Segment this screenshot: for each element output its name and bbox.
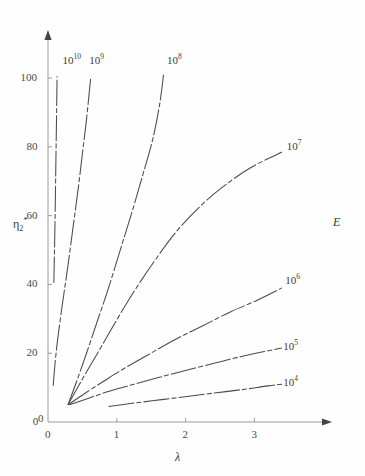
figure-container: 012302040608010010101091081071061051040 … [0,0,365,476]
y-tick-label: 100 [20,72,37,83]
curve-label-exponent: 6 [296,272,300,281]
curve-10-9 [53,78,91,386]
curve-label-base: 10 [283,375,294,387]
y-axis-label-subscript: 2 [19,224,23,233]
y-tick-label: 40 [27,278,38,289]
y-axis-label-star: * [23,215,28,225]
x-tick-label: 2 [183,429,189,440]
curve-label-10-9: 109 [89,53,104,66]
curve-label-exponent: 5 [294,338,298,347]
y-tick-label: 20 [27,347,38,358]
curve-label-10-10: 1010 [62,53,81,66]
x-tick-label: 1 [114,429,120,440]
curve-label-exponent: 8 [178,52,182,61]
chart-canvas [0,0,365,476]
curve-10-6 [68,288,282,405]
axes-layer [44,30,332,426]
y-axis-arrow [44,30,51,40]
y-axis-label: η2* [13,216,28,233]
curve-label-10-4: 104 [283,375,298,388]
curve-label-exponent: 4 [294,374,298,383]
x-tick-label: 0 [45,429,51,440]
curve-label-exponent: 10 [73,52,81,61]
curve-label-10-6: 106 [285,273,300,286]
curve-label-exponent: 7 [298,138,302,147]
curve-label-base: 10 [285,274,296,286]
y-tick-label: 80 [27,141,38,152]
curve-10-8 [68,75,164,405]
family-parameter-label: E [333,216,340,228]
curve-label-10-7: 107 [287,139,302,152]
origin-label: 0 [38,413,44,424]
curve-label-base: 10 [89,54,100,66]
curve-10-5 [69,348,282,405]
curve-label-base: 10 [287,140,298,152]
curve-label-10-5: 105 [283,339,298,352]
x-tick-label: 3 [251,429,257,440]
curve-label-base: 10 [283,339,294,351]
x-axis-label: λ [175,451,180,463]
curve-10-7 [68,152,282,405]
y-tick-label: 60 [27,210,38,221]
curve-10-10 [54,76,57,282]
curve-10-4 [109,384,284,406]
curve-label-base: 10 [167,54,178,66]
curve-label-exponent: 9 [100,52,104,61]
x-axis-arrow [322,418,332,425]
curve-label-10-8: 108 [167,53,182,66]
curves-layer [53,75,283,407]
curve-label-base: 10 [62,54,73,66]
